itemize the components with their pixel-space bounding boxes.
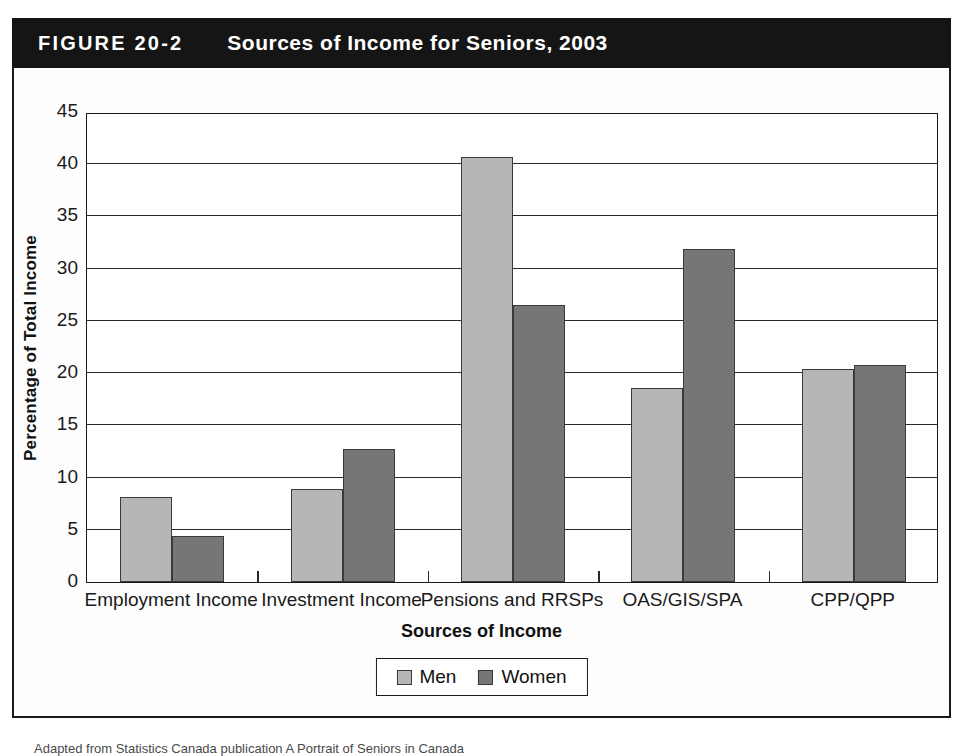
plot-area: 051015202530354045 — [86, 113, 938, 583]
y-tick-label-35: 35 — [57, 204, 78, 226]
legend-entry-women: Women — [478, 666, 566, 688]
chart-legend: Men Women — [375, 658, 587, 696]
y-axis-title: Percentage of Total Income — [18, 113, 44, 583]
legend-swatch-women-icon — [478, 670, 493, 685]
x-axis-tick-3 — [598, 571, 600, 582]
y-tick-label-0: 0 — [67, 570, 78, 592]
bar-men-1 — [291, 489, 343, 582]
y-tick-label-30: 30 — [57, 257, 78, 279]
y-axis-title-text: Percentage of Total Income — [21, 235, 41, 461]
x-axis-tick-1 — [257, 571, 259, 582]
x-category-label-4: CPP/QPP — [811, 589, 895, 611]
x-axis-title: Sources of Income — [12, 621, 951, 642]
bar-women-1 — [343, 449, 395, 582]
bar-men-3 — [631, 388, 683, 582]
figure-number: FIGURE 20-2 — [38, 32, 183, 55]
y-tick-label-40: 40 — [57, 152, 78, 174]
bar-women-3 — [683, 249, 735, 582]
gridline-45: 45 — [87, 111, 937, 112]
x-category-label-2: Pensions and RRSPs — [421, 589, 604, 611]
y-tick-label-45: 45 — [57, 100, 78, 122]
bar-women-0 — [172, 536, 224, 582]
legend-entry-men: Men — [396, 666, 456, 688]
figure-header-bar: FIGURE 20-2 Sources of Income for Senior… — [12, 18, 951, 68]
legend-label-women: Women — [501, 666, 566, 688]
x-category-label-3: OAS/GIS/SPA — [622, 589, 742, 611]
bar-men-2 — [461, 157, 513, 582]
y-tick-label-25: 25 — [57, 309, 78, 331]
x-category-label-1: Investment Income — [261, 589, 422, 611]
bar-men-4 — [802, 369, 854, 582]
legend-label-men: Men — [419, 666, 456, 688]
y-tick-label-20: 20 — [57, 361, 78, 383]
bar-women-2 — [513, 305, 565, 582]
y-tick-label-15: 15 — [57, 413, 78, 435]
y-tick-label-5: 5 — [67, 518, 78, 540]
chart-area: Percentage of Total Income 0510152025303… — [12, 68, 951, 718]
x-category-label-0: Employment Income — [85, 589, 258, 611]
x-axis-tick-4 — [769, 571, 771, 582]
bar-women-4 — [854, 365, 906, 582]
legend-swatch-men-icon — [396, 670, 411, 685]
bar-men-0 — [120, 497, 172, 582]
x-axis-tick-2 — [428, 571, 430, 582]
source-note: Adapted from Statistics Canada publicati… — [34, 741, 914, 756]
figure-title: Sources of Income for Seniors, 2003 — [227, 31, 607, 55]
y-tick-label-10: 10 — [57, 466, 78, 488]
